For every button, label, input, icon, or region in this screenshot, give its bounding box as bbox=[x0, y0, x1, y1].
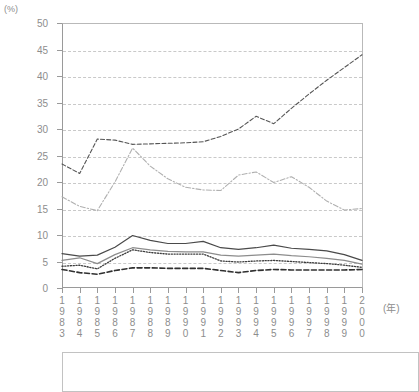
x-axis-tick-digit: 0 bbox=[351, 317, 373, 328]
x-axis-tick-mark bbox=[168, 288, 169, 293]
x-axis-tick-mark bbox=[274, 288, 275, 293]
x-axis-unit-label: (年) bbox=[383, 300, 400, 315]
y-axis-unit-label: (%) bbox=[4, 4, 18, 14]
legend-box bbox=[62, 352, 419, 392]
x-axis-tick-mark bbox=[344, 288, 345, 293]
y-axis-tick-label: 10 bbox=[8, 230, 48, 241]
x-axis-tick-mark bbox=[221, 288, 222, 293]
x-axis-tick-mark bbox=[133, 288, 134, 293]
x-axis-tick-mark bbox=[362, 288, 363, 293]
x-axis-tick-mark bbox=[291, 288, 292, 293]
y-axis-tick-label: 5 bbox=[8, 256, 48, 267]
series-layer bbox=[62, 23, 363, 288]
x-axis-tick-mark bbox=[115, 288, 116, 293]
series-line-series-1 bbox=[62, 55, 362, 174]
x-axis-tick-mark bbox=[97, 288, 98, 293]
x-axis-tick-mark bbox=[186, 288, 187, 293]
y-axis-tick-label: 15 bbox=[8, 203, 48, 214]
y-axis-tick-label: 25 bbox=[8, 150, 48, 161]
series-line-series-6 bbox=[62, 268, 362, 274]
x-axis-tick-mark bbox=[203, 288, 204, 293]
y-axis-tick-label: 50 bbox=[8, 18, 48, 29]
y-axis-tick-label: 20 bbox=[8, 177, 48, 188]
series-line-series-5 bbox=[62, 250, 362, 269]
x-axis-tick-digit: 0 bbox=[351, 328, 373, 339]
x-axis-tick-mark bbox=[150, 288, 151, 293]
y-axis-tick-label: 30 bbox=[8, 124, 48, 135]
series-line-series-3 bbox=[62, 236, 362, 261]
x-axis-tick-mark bbox=[327, 288, 328, 293]
series-line-series-2 bbox=[62, 148, 362, 211]
x-axis-tick-label: 2000 bbox=[351, 295, 373, 339]
y-axis-tick-label: 40 bbox=[8, 71, 48, 82]
x-axis-tick-digit: 2 bbox=[351, 295, 373, 306]
x-axis-tick-mark bbox=[256, 288, 257, 293]
y-axis-tick-label: 45 bbox=[8, 44, 48, 55]
x-axis-tick-digit: 0 bbox=[351, 306, 373, 317]
x-axis-tick-mark bbox=[62, 288, 63, 293]
x-axis-tick-mark bbox=[309, 288, 310, 293]
y-axis-tick-label: 0 bbox=[8, 283, 48, 294]
x-axis-tick-mark bbox=[238, 288, 239, 293]
y-axis-tick-label: 35 bbox=[8, 97, 48, 108]
x-axis-tick-mark bbox=[80, 288, 81, 293]
